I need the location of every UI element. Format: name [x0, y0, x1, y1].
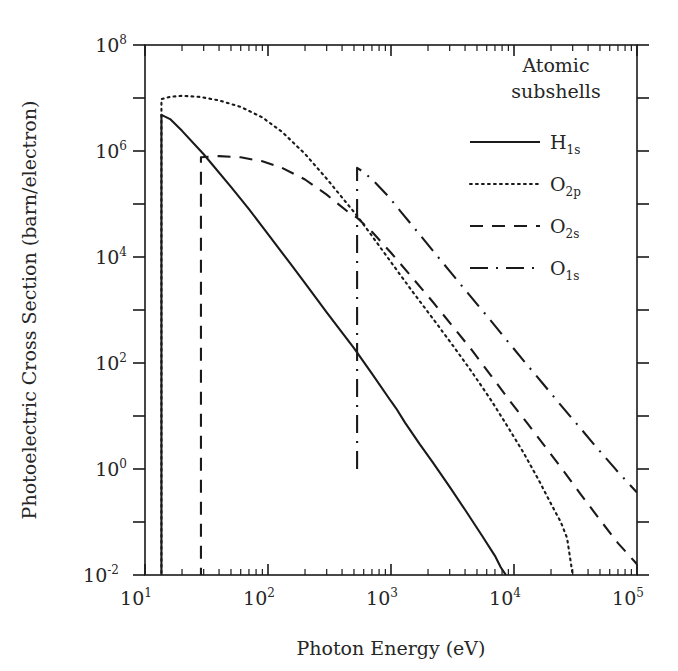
x-axis-title: Photon Energy (eV)	[297, 637, 486, 659]
photoelectric-cross-section-figure: 101102103104105 10-2100102104106108 Phot…	[0, 0, 678, 671]
y-axis-title: Photoelectric Cross Section (barn/electr…	[18, 101, 40, 520]
legend-title-line2: subshells	[511, 80, 600, 102]
chart-canvas: 101102103104105 10-2100102104106108 Phot…	[0, 0, 678, 671]
legend-title-line1: Atomic	[521, 54, 589, 76]
